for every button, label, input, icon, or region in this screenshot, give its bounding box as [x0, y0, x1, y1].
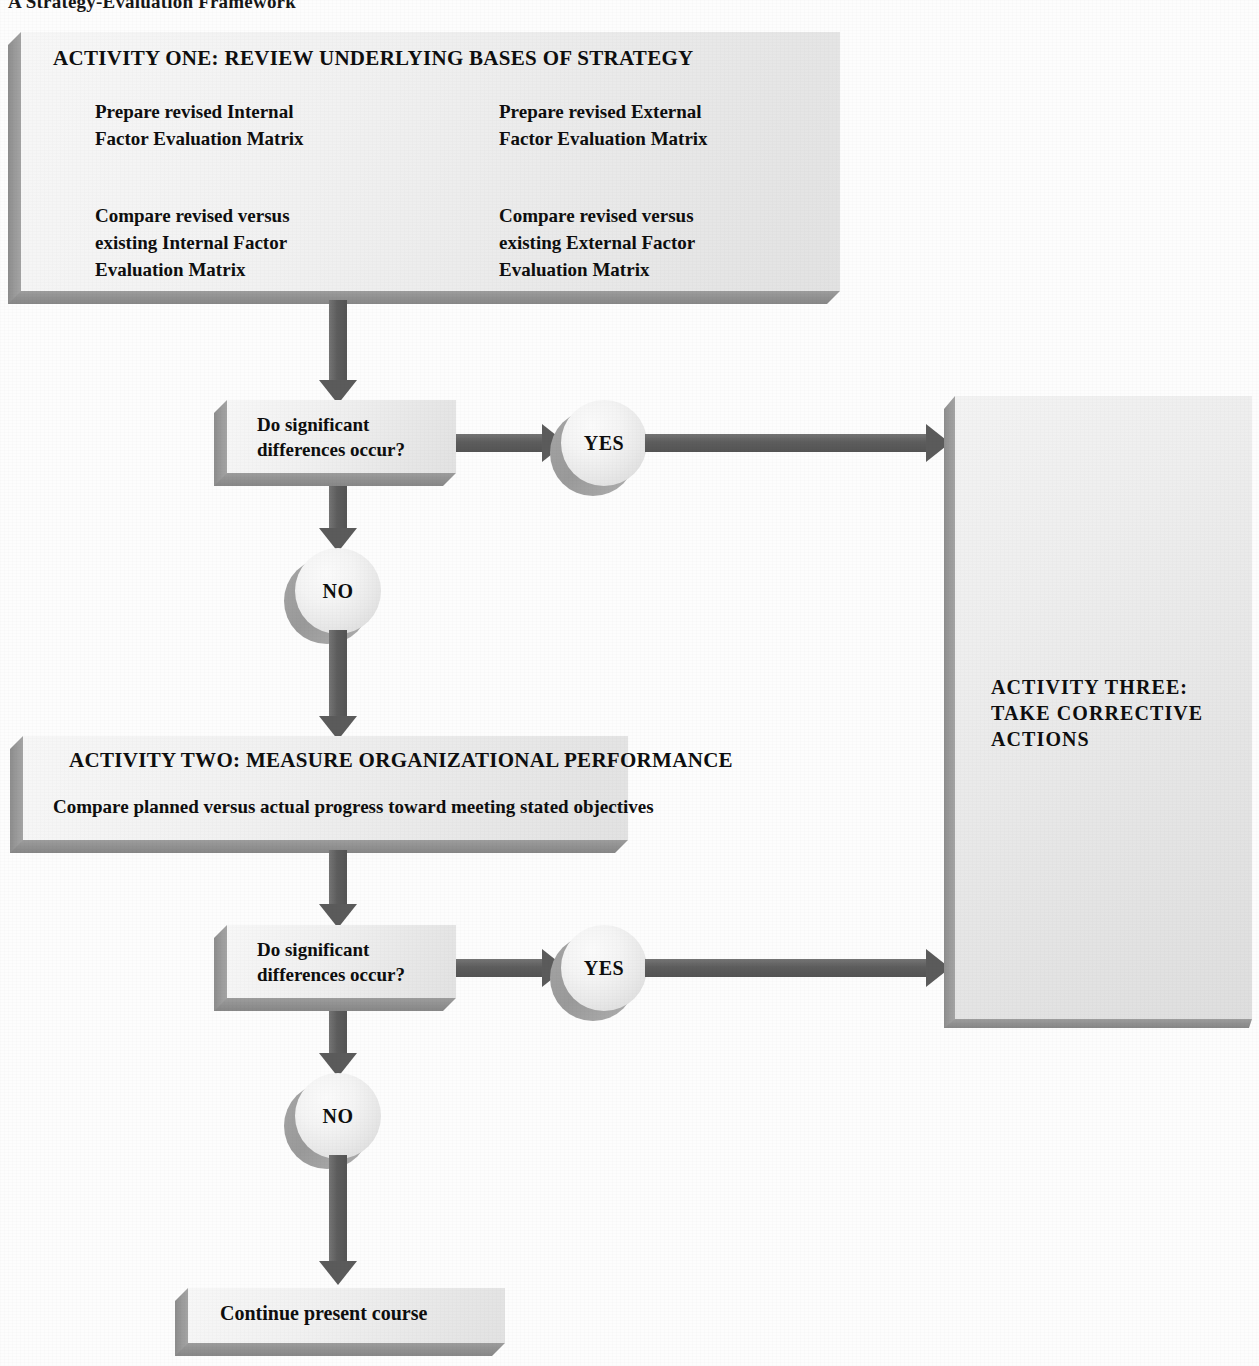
arrow-stem [645, 959, 928, 977]
arrow-stem [456, 959, 544, 977]
arrow-stem [645, 434, 928, 452]
box-shadow-left [10, 736, 23, 853]
flowchart-figure: A Strategy-Evaluation Framework ACTIVITY… [0, 0, 1259, 1366]
decision-one-box: Do significant differences occur? [214, 400, 456, 486]
box-face: Do significant differences occur? [227, 925, 456, 998]
activity-one-box: ACTIVITY ONE: REVIEW UNDERLYING BASES OF… [8, 32, 840, 304]
no-circle-two: NO [295, 1073, 381, 1159]
arrow-stem [329, 486, 347, 532]
arrow-stem [456, 434, 544, 452]
yes-label-one: YES [561, 400, 647, 486]
arrow-activity-one-to-decision-one [316, 300, 360, 404]
arrow-activity-two-to-decision-two [316, 850, 360, 928]
box-face: Do significant differences occur? [227, 400, 456, 473]
box-face: Continue present course [188, 1288, 505, 1343]
activity-one-heading: ACTIVITY ONE: REVIEW UNDERLYING BASES OF… [53, 46, 694, 71]
box-shadow-left [214, 400, 227, 486]
arrow-stem [329, 300, 347, 382]
box-shadow-bottom [214, 998, 456, 1011]
activity-one-col1-item1: Prepare revised Internal Factor Evaluati… [95, 98, 304, 152]
no-label-one: NO [295, 548, 381, 634]
box-shadow-left [944, 396, 955, 1028]
decision-one-question: Do significant differences occur? [257, 412, 405, 462]
box-face: ACTIVITY ONE: REVIEW UNDERLYING BASES OF… [21, 32, 840, 291]
arrow-stem [329, 1011, 347, 1057]
terminal-box: Continue present course [175, 1288, 505, 1356]
no-label-two: NO [295, 1073, 381, 1159]
box-shadow-bottom [944, 1019, 1252, 1028]
activity-one-col1-item2: Compare revised versus existing Internal… [95, 202, 290, 283]
arrow-stem [329, 630, 347, 718]
arrow-no-one-to-activity-two [316, 630, 360, 740]
activity-two-body: Compare planned versus actual progress t… [53, 796, 654, 818]
activity-three-box: ACTIVITY THREE: TAKE CORRECTIVE ACTIONS [944, 396, 1252, 1028]
box-shadow-bottom [8, 291, 840, 304]
activity-two-box: ACTIVITY TWO: MEASURE ORGANIZATIONAL PER… [10, 736, 628, 853]
box-shadow-bottom [214, 473, 456, 486]
yes-circle-one: YES [561, 400, 647, 486]
no-circle-one: NO [295, 548, 381, 634]
figure-title: A Strategy-Evaluation Framework [8, 0, 296, 13]
yes-label-two: YES [561, 925, 647, 1011]
arrow-no-two-to-terminal [316, 1155, 360, 1285]
arrow-decision-two-to-no [316, 1011, 360, 1077]
activity-one-col2-item1: Prepare revised External Factor Evaluati… [499, 98, 708, 152]
terminal-label: Continue present course [220, 1302, 427, 1325]
decision-two-box: Do significant differences occur? [214, 925, 456, 1011]
decision-two-question: Do significant differences occur? [257, 937, 405, 987]
arrow-yes-two-to-activity-three [645, 948, 950, 988]
box-face: ACTIVITY THREE: TAKE CORRECTIVE ACTIONS [955, 396, 1252, 1019]
activity-three-heading: ACTIVITY THREE: TAKE CORRECTIVE ACTIONS [991, 674, 1203, 752]
box-shadow-bottom [175, 1343, 505, 1356]
arrow-stem [329, 1155, 347, 1263]
arrow-decision-one-to-no [316, 486, 360, 552]
activity-one-col2-item2: Compare revised versus existing External… [499, 202, 695, 283]
box-face: ACTIVITY TWO: MEASURE ORGANIZATIONAL PER… [23, 736, 628, 840]
arrow-head [319, 1261, 357, 1285]
activity-two-heading: ACTIVITY TWO: MEASURE ORGANIZATIONAL PER… [69, 748, 733, 773]
yes-circle-two: YES [561, 925, 647, 1011]
box-shadow-left [8, 32, 21, 304]
arrow-stem [329, 850, 347, 906]
box-shadow-left [214, 925, 227, 1011]
arrow-yes-one-to-activity-three [645, 423, 950, 463]
